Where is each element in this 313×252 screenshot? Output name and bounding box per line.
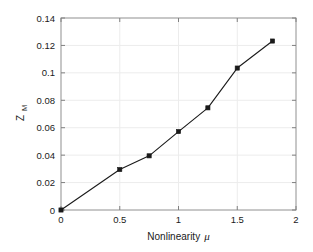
- data-point-marker: [235, 66, 239, 70]
- data-point-marker: [176, 129, 180, 133]
- y-tick-label: 0.04: [37, 150, 56, 161]
- y-axis-title-label: Z: [15, 115, 26, 121]
- y-tick-label: 0: [50, 205, 55, 216]
- y-tick-label: 0.06: [37, 122, 56, 133]
- data-point-marker: [270, 39, 274, 43]
- data-point-marker: [59, 208, 63, 212]
- data-point-marker: [206, 106, 210, 110]
- x-tick-label: 0: [58, 214, 63, 225]
- y-axis-title-subscript: M: [20, 105, 29, 111]
- x-axis-title-label: Nonlinearity: [147, 231, 200, 242]
- y-tick-label: 0.12: [37, 40, 56, 51]
- x-axis-title-symbol: μ: [203, 230, 210, 242]
- y-tick-label: 0.1: [42, 67, 55, 78]
- y-tick-label: 0.02: [37, 177, 56, 188]
- figure-container: 00.511.52 00.020.040.060.080.10.120.14 N…: [0, 0, 313, 252]
- x-tick-label: 2: [293, 214, 298, 225]
- y-tick-label: 0.08: [37, 95, 56, 106]
- x-tick-label: 0.5: [113, 214, 126, 225]
- y-tick-label: 0.14: [37, 13, 56, 24]
- data-point-marker: [147, 154, 151, 158]
- x-tick-label: 1: [176, 214, 181, 225]
- chart-canvas: 00.511.52 00.020.040.060.080.10.120.14 N…: [0, 0, 313, 252]
- x-tick-label: 1.5: [231, 214, 244, 225]
- data-point-marker: [118, 167, 122, 171]
